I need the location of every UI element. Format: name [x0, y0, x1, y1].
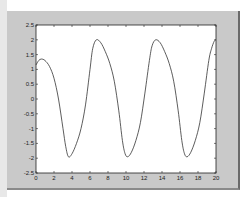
x-tick-label: 12: [141, 175, 148, 181]
x-tick-label: 14: [159, 175, 166, 181]
y-tick-label: 1: [31, 66, 35, 72]
y-tick-label: -2.5: [24, 170, 35, 176]
y-tick-label: -0.5: [24, 111, 35, 117]
x-tick-label: 10: [123, 175, 130, 181]
x-tick-label: 6: [88, 175, 92, 181]
axes-area: [36, 25, 216, 173]
y-tick-label: -1: [29, 126, 35, 132]
y-tick-label: 0.5: [26, 81, 35, 87]
x-tick-label: 20: [213, 175, 220, 181]
x-tick-label: 0: [34, 175, 38, 181]
x-tick-label: 18: [195, 175, 202, 181]
y-tick-label: 1.5: [26, 52, 35, 58]
y-tick-label: -1.5: [24, 140, 35, 146]
y-tick-label: 2.5: [26, 22, 35, 28]
y-tick-label: 0: [31, 96, 35, 102]
x-tick-label: 8: [106, 175, 110, 181]
line-chart: 024681012141618202.521.510.50-0.5-1-1.5-…: [0, 0, 246, 197]
y-tick-label: -2: [29, 155, 35, 161]
y-tick-label: 2: [31, 37, 35, 43]
x-tick-label: 16: [177, 175, 184, 181]
x-tick-label: 4: [70, 175, 74, 181]
x-tick-label: 2: [52, 175, 56, 181]
